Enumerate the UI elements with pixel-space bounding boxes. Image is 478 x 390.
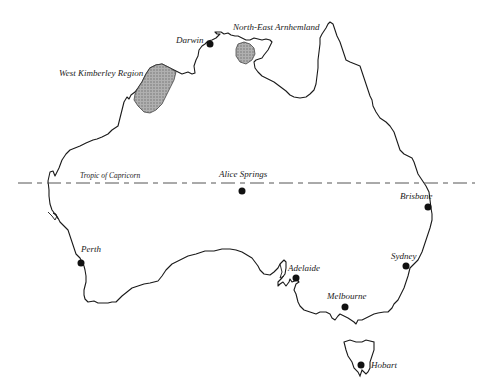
north-east-arnhemland-region — [236, 42, 255, 64]
region-label-west-kimberley: West Kimberley Region — [59, 69, 143, 78]
city-label-brisbane: Brisbane — [400, 192, 433, 201]
city-dot-sydney — [403, 263, 410, 270]
city-label-hobart: Hobart — [371, 361, 397, 370]
city-label-melbourne: Melbourne — [327, 292, 367, 301]
spencer-gulf-detail — [280, 264, 284, 278]
region-label-north-east-arnhemland: North-East Arnhemland — [233, 23, 320, 32]
city-dot-darwin — [207, 41, 214, 48]
city-dot-adelaide — [293, 275, 300, 282]
tropic-label: Tropic of Capricorn — [80, 172, 140, 180]
city-label-darwin: Darwin — [176, 36, 204, 45]
city-label-sydney: Sydney — [391, 252, 416, 261]
city-label-perth: Perth — [81, 245, 101, 254]
city-dot-alice-springs — [239, 188, 246, 195]
city-dot-perth — [78, 260, 85, 267]
city-dot-hobart — [358, 362, 365, 369]
city-label-alice-springs: Alice Springs — [219, 170, 267, 179]
shark-bay-inlet — [48, 212, 58, 220]
city-dot-brisbane — [425, 204, 432, 211]
city-label-adelaide: Adelaide — [288, 264, 320, 273]
city-dot-melbourne — [342, 304, 349, 311]
tasmania-coastline — [344, 340, 374, 376]
